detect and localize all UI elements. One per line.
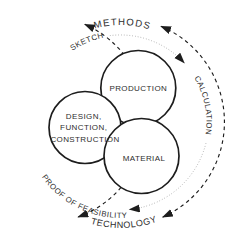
- sketch-label: SKETCH: [68, 31, 104, 53]
- production-label: PRODUCTION: [109, 84, 167, 93]
- outer-dashed-arc-right: [161, 26, 224, 217]
- diagram-canvas: PRODUCTION DESIGN, FUNCTION, CONSTRUCTIO…: [0, 0, 241, 247]
- methods-technology-cycle-diagram: PRODUCTION DESIGN, FUNCTION, CONSTRUCTIO…: [0, 0, 241, 247]
- design-label-line-2: FUNCTION,: [60, 123, 107, 132]
- design-label-line-3: CONSTRUCTION: [50, 135, 119, 144]
- calculation-label: CALCULATION: [193, 74, 214, 135]
- material-label: MATERIAL: [123, 154, 166, 163]
- methods-label: METHODS: [93, 16, 153, 32]
- design-label-line-1: DESIGN,: [66, 112, 102, 121]
